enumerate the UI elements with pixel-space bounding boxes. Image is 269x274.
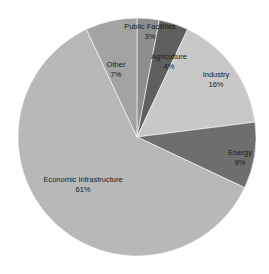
slice-percent: 61% bbox=[43, 185, 122, 195]
slice-name: Economic Infrastructure bbox=[43, 175, 122, 185]
slice-percent: 9% bbox=[228, 158, 252, 168]
label-economic-infrastructure: Economic Infrastructure 61% bbox=[43, 175, 122, 195]
label-other: Other 7% bbox=[107, 60, 126, 80]
slice-name: Other bbox=[107, 60, 126, 70]
slice-percent: 16% bbox=[203, 80, 230, 90]
label-agriculture: Agriculture 4% bbox=[151, 52, 187, 72]
slice-name: Agriculture bbox=[151, 52, 187, 62]
slice-percent: 3% bbox=[124, 32, 176, 42]
slice-name: Industry bbox=[203, 70, 230, 80]
slice-name: Energy bbox=[228, 148, 252, 158]
slice-name: Public Facilities bbox=[124, 22, 176, 32]
label-industry: Industry 16% bbox=[203, 70, 230, 90]
label-energy: Energy 9% bbox=[228, 148, 252, 168]
label-public-facilities: Public Facilities 3% bbox=[124, 22, 176, 42]
slice-percent: 4% bbox=[151, 62, 187, 72]
slice-percent: 7% bbox=[107, 70, 126, 80]
